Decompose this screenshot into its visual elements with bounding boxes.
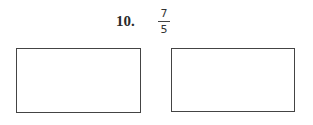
fraction-numerator: 7 (158, 8, 170, 20)
answer-box-right[interactable] (171, 48, 295, 112)
problem-number: 10. (116, 13, 135, 30)
fraction: 7 5 (158, 8, 170, 35)
answer-box-left[interactable] (16, 48, 141, 113)
fraction-bar (158, 21, 170, 22)
fraction-denominator: 5 (158, 24, 170, 35)
